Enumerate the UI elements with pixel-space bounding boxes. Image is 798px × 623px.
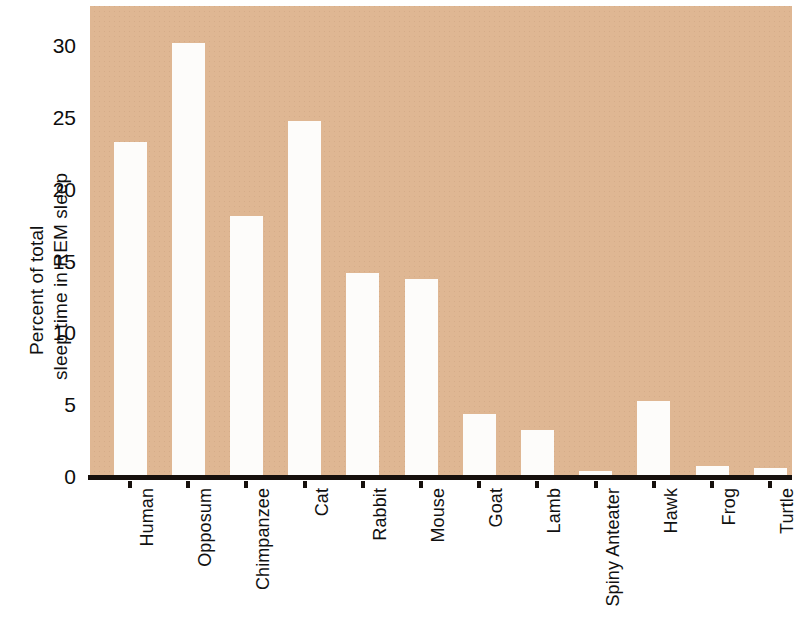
- x-axis-label-turtle: Turtle: [777, 488, 798, 534]
- y-axis-ticks: 051015202530: [14, 0, 76, 500]
- x-tick-mark-lamb: [535, 481, 539, 488]
- x-axis-label-hawk: Hawk: [661, 488, 682, 533]
- x-tick-mark-rabbit: [361, 481, 365, 488]
- x-axis-label-goat: Goat: [486, 488, 507, 527]
- y-tick-label-25: 25: [34, 107, 76, 128]
- bar-lamb: [521, 430, 554, 477]
- x-axis-label-frog: Frog: [719, 488, 740, 525]
- y-tick-label-10: 10: [34, 322, 76, 343]
- x-tick-mark-turtle: [768, 481, 772, 488]
- bar-hawk: [637, 401, 670, 477]
- x-tick-mark-chimpanzee: [244, 481, 248, 488]
- bar-mouse: [405, 279, 438, 477]
- y-tick-label-20: 20: [34, 179, 76, 200]
- y-tick-label-5: 5: [34, 394, 76, 415]
- x-tick-mark-spiny-anteater: [594, 481, 598, 488]
- x-tick-mark-frog: [710, 481, 714, 488]
- x-axis-label-rabbit: Rabbit: [370, 488, 391, 541]
- x-axis-label-cat: Cat: [312, 488, 333, 516]
- bar-opposum: [172, 43, 205, 477]
- bar-cat: [288, 121, 321, 477]
- y-tick-label-0: 0: [34, 466, 76, 487]
- x-tick-mark-goat: [477, 481, 481, 488]
- x-tick-mark-hawk: [652, 481, 656, 488]
- x-axis-label-mouse: Mouse: [428, 488, 449, 543]
- bar-human: [114, 142, 147, 477]
- x-tick-mark-mouse: [419, 481, 423, 488]
- plot-area: [90, 6, 792, 477]
- x-axis-label-spiny-anteater: Spiny Anteater: [603, 488, 624, 606]
- x-tick-mark-human: [128, 481, 132, 488]
- bar-goat: [463, 414, 496, 477]
- bar-chimpanzee: [230, 216, 263, 477]
- x-tick-mark-cat: [303, 481, 307, 488]
- bar-rabbit: [346, 273, 379, 477]
- x-axis-label-lamb: Lamb: [544, 488, 565, 533]
- x-axis-labels: HumanOpposumChimpanzeeCatRabbitMouseGoat…: [90, 480, 792, 623]
- y-tick-label-30: 30: [34, 35, 76, 56]
- x-axis-label-chimpanzee: Chimpanzee: [253, 488, 274, 590]
- x-axis-label-opposum: Opposum: [195, 488, 216, 567]
- x-tick-mark-opposum: [186, 481, 190, 488]
- x-axis-label-human: Human: [137, 488, 158, 547]
- y-tick-label-15: 15: [34, 251, 76, 272]
